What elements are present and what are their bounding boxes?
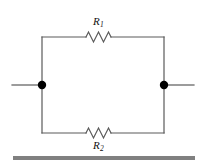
resistor-bottom-label-symbol: R [93,139,100,151]
terminal-node-left [38,81,46,89]
resistor-bottom-label-subscript: 2 [100,144,104,153]
resistor-top-label: R1 [93,16,103,27]
terminal-node-right [160,81,168,89]
bottom-rule [13,156,195,160]
resistor-top-label-subscript: 1 [100,20,104,29]
resistor-top-label-symbol: R [93,15,100,27]
resistor-bottom-label: R2 [93,140,103,151]
resistor-bottom-zigzag [86,128,111,138]
circuit-figure: R1 R2 [0,0,204,166]
resistor-top-zigzag [86,32,111,42]
